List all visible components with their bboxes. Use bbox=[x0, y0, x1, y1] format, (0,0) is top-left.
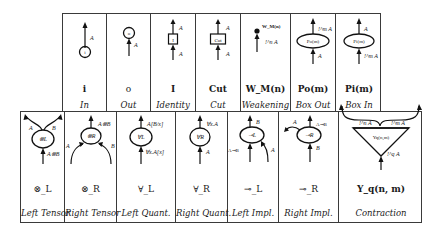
label-left-tensor: Left Tensor bbox=[21, 208, 64, 218]
svg-text:B: B bbox=[316, 145, 320, 151]
svg-text:⊸L: ⊸L bbox=[248, 132, 257, 138]
label-in: In bbox=[63, 100, 106, 110]
cut-node-diagram: Cut A A bbox=[196, 14, 241, 113]
label-identity: Identity bbox=[151, 100, 195, 110]
svg-text:A: A bbox=[225, 51, 230, 57]
svg-text:A[B/x]: A[B/x] bbox=[146, 121, 164, 128]
svg-text:!^m A: !^m A bbox=[364, 53, 378, 59]
cell-out: o A o Out bbox=[107, 14, 151, 111]
weakening-node-diagram: W_M(n) !^n A bbox=[241, 14, 291, 113]
cell-left-tensor: ⊗L A B A⊗B ⊗_L Left Tensor bbox=[21, 112, 65, 222]
svg-text:A⊸B: A⊸B bbox=[316, 122, 328, 127]
symbol-weakening: W_M(n) bbox=[241, 84, 290, 94]
in-node-diagram: i A bbox=[63, 14, 107, 113]
svg-text:i: i bbox=[84, 50, 86, 55]
svg-text:∀x.A[x]: ∀x.A[x] bbox=[145, 149, 165, 156]
symbol-contraction: Y_q(n, m) bbox=[339, 184, 423, 194]
svg-text:A⊗B: A⊗B bbox=[46, 151, 60, 157]
symbol-out: o bbox=[107, 84, 150, 94]
svg-text:⊗R: ⊗R bbox=[87, 133, 96, 139]
cell-cut: Cut A A Cut Cut bbox=[196, 14, 241, 111]
svg-text:o: o bbox=[128, 31, 131, 36]
out-node-diagram: o A bbox=[107, 14, 151, 113]
svg-text:A: A bbox=[178, 25, 183, 31]
svg-text:!^n A: !^n A bbox=[265, 39, 278, 45]
symbol-box-in: Pi(m) bbox=[336, 84, 382, 94]
top-row-table: i A i In o A o Out I A A I Identity bbox=[62, 13, 381, 112]
svg-text:!^m A: !^m A bbox=[391, 120, 405, 126]
label-weakening: Weakening bbox=[241, 100, 290, 110]
cell-weakening: W_M(n) !^n A W_M(n) Weakening bbox=[241, 14, 291, 111]
symbol-right-tensor: ⊗_R bbox=[65, 184, 116, 194]
svg-text:A: A bbox=[205, 149, 210, 155]
svg-text:A: A bbox=[317, 53, 322, 59]
cell-box-out: Po(m) !^m A A Po(m) Box Out bbox=[291, 14, 336, 111]
cell-box-in: Pi(m) A !^m A Pi(m) Box In bbox=[336, 14, 382, 111]
svg-text:A: A bbox=[270, 147, 275, 153]
svg-text:∀L: ∀L bbox=[137, 134, 145, 140]
label-right-quant: Right Quant. bbox=[176, 208, 227, 218]
cell-right-impl: ⊸R A A⊸B B ⊸_R Right Impl. bbox=[279, 112, 339, 222]
symbol-in: i bbox=[63, 84, 106, 94]
svg-text:B: B bbox=[52, 125, 56, 131]
symbol-right-quant: ∀_R bbox=[176, 184, 227, 194]
svg-text:⊸R: ⊸R bbox=[305, 132, 314, 138]
svg-text:!^m A: !^m A bbox=[318, 26, 332, 32]
label-cut: Cut bbox=[196, 100, 240, 110]
symbol-box-out: Po(m) bbox=[291, 84, 335, 94]
bottom-row-table: ⊗L A B A⊗B ⊗_L Left Tensor ⊗R A⊗B A B ⊗_… bbox=[20, 111, 422, 223]
symbol-left-quant: ∀_L bbox=[117, 184, 175, 194]
svg-text:A: A bbox=[363, 26, 368, 32]
box-out-node-diagram: Po(m) !^m A A bbox=[291, 14, 336, 113]
label-right-impl: Right Impl. bbox=[279, 208, 338, 218]
svg-text:W_M(n): W_M(n) bbox=[262, 24, 281, 29]
svg-text:⊗L: ⊗L bbox=[39, 136, 48, 142]
svg-text:A: A bbox=[133, 42, 138, 48]
svg-text:B: B bbox=[111, 143, 115, 149]
cell-right-quant: ∀R ∀x.A A ∀_R Right Quant. bbox=[176, 112, 228, 222]
symbol-cut: Cut bbox=[196, 84, 240, 94]
symbol-right-impl: ⊸_R bbox=[279, 184, 338, 194]
symbol-identity: I bbox=[151, 84, 195, 94]
svg-text:∀R: ∀R bbox=[196, 134, 204, 140]
label-right-tensor: Right Tensor bbox=[65, 208, 116, 218]
cell-contraction: Yq(n,m) !^n A !^m A !^q A Y_q(n, m) Cont… bbox=[339, 112, 423, 222]
box-in-node-diagram: Pi(m) A !^m A bbox=[336, 14, 382, 113]
label-contraction: Contraction bbox=[339, 208, 423, 218]
svg-text:A: A bbox=[178, 51, 183, 57]
svg-text:A⊸B: A⊸B bbox=[228, 148, 240, 153]
svg-text:B: B bbox=[256, 119, 260, 125]
svg-text:Po(m): Po(m) bbox=[307, 39, 320, 44]
svg-text:A: A bbox=[292, 119, 297, 125]
svg-text:A: A bbox=[225, 25, 230, 31]
svg-text:Pi(m): Pi(m) bbox=[353, 39, 365, 44]
symbol-left-impl: ⊸_L bbox=[228, 184, 278, 194]
svg-text:∀x.A: ∀x.A bbox=[206, 121, 218, 127]
svg-text:!^q A: !^q A bbox=[387, 151, 400, 157]
svg-text:Cut: Cut bbox=[214, 38, 222, 43]
svg-text:A⊗B: A⊗B bbox=[97, 121, 111, 127]
cell-in: i A i In bbox=[63, 14, 107, 111]
cell-left-impl: ⊸L B A⊸B A ⊸_L Left Impl. bbox=[228, 112, 279, 222]
symbol-left-tensor: ⊗_L bbox=[21, 184, 64, 194]
svg-text:A: A bbox=[28, 125, 33, 131]
cell-right-tensor: ⊗R A⊗B A B ⊗_R Right Tensor bbox=[65, 112, 117, 222]
label-box-out: Box Out bbox=[291, 100, 335, 110]
cell-left-quant: ∀L A[B/x] ∀x.A[x] ∀_L Left Quant. bbox=[117, 112, 176, 222]
cell-identity: I A A I Identity bbox=[151, 14, 196, 111]
svg-text:!^n A: !^n A bbox=[359, 120, 372, 126]
label-left-impl: Left Impl. bbox=[228, 208, 278, 218]
svg-text:A: A bbox=[65, 143, 70, 149]
label-left-quant: Left Quant. bbox=[117, 208, 175, 218]
identity-node-diagram: I A A bbox=[151, 14, 196, 113]
svg-text:A: A bbox=[89, 35, 94, 41]
label-out: Out bbox=[107, 100, 150, 110]
